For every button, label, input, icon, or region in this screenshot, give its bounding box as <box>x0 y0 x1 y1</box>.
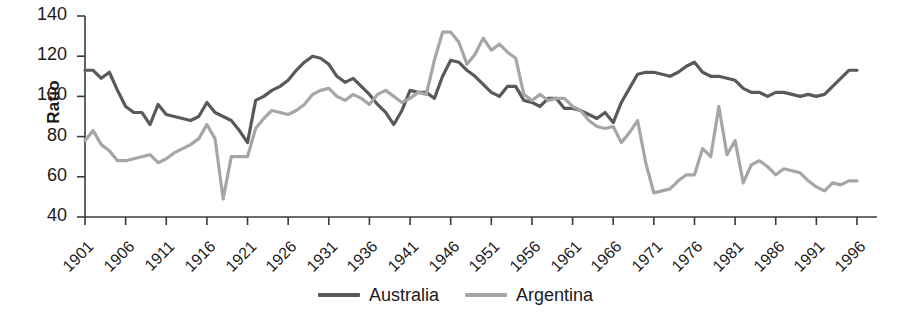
x-axis-ticks <box>85 217 857 225</box>
legend-swatch-australia <box>318 293 360 297</box>
ratio-line-chart: Ratio 140120100806040 190119061911191619… <box>0 0 911 314</box>
plot-area <box>0 0 911 314</box>
axis-lines <box>85 16 877 217</box>
legend-label: Australia <box>369 286 439 304</box>
legend-item-argentina[interactable]: Argentina <box>465 286 593 304</box>
chart-legend: AustraliaArgentina <box>0 286 911 304</box>
legend-swatch-argentina <box>465 293 507 297</box>
data-series-group <box>85 32 857 199</box>
legend-label: Argentina <box>516 286 593 304</box>
legend-item-australia[interactable]: Australia <box>318 286 439 304</box>
y-axis-ticks <box>77 16 85 217</box>
series-line-australia <box>85 56 857 142</box>
